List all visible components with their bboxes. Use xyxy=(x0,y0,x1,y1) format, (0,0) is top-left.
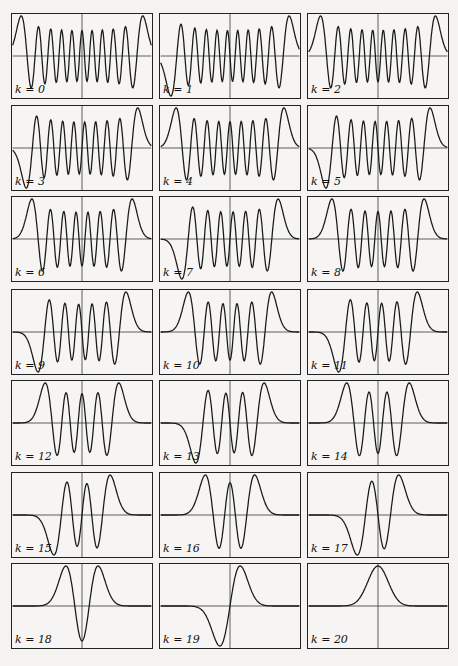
plot-panel-k13: k = 13 xyxy=(159,380,301,466)
panel-label: k = 2 xyxy=(311,83,341,96)
panel-label: k = 8 xyxy=(311,266,341,279)
plot-panel-k19: k = 19 xyxy=(159,563,301,649)
plot-panel-k5: k = 5 xyxy=(307,105,449,191)
plot-panel-k17: k = 17 xyxy=(307,472,449,558)
plot-panel-k11: k = 11 xyxy=(307,289,449,375)
panel-label: k = 19 xyxy=(163,633,200,646)
panel-label: k = 17 xyxy=(311,542,348,555)
panel-label: k = 14 xyxy=(311,450,348,463)
plot-panel-k15: k = 15 xyxy=(11,472,153,558)
plot-panel-k8: k = 8 xyxy=(307,196,449,282)
plot-panel-k0: k = 0 xyxy=(11,13,153,99)
panel-label: k = 11 xyxy=(311,359,348,372)
panel-label: k = 16 xyxy=(163,542,200,555)
panel-label: k = 18 xyxy=(15,633,52,646)
panel-label: k = 5 xyxy=(311,175,341,188)
plot-panel-k1: k = 1 xyxy=(159,13,301,99)
panel-label: k = 1 xyxy=(163,83,193,96)
panel-label: k = 6 xyxy=(15,266,45,279)
plot-panel-k20: k = 20 xyxy=(307,563,449,649)
plot-panel-k12: k = 12 xyxy=(11,380,153,466)
panel-label: k = 10 xyxy=(163,359,200,372)
panel-label: k = 13 xyxy=(163,450,200,463)
plot-panel-k16: k = 16 xyxy=(159,472,301,558)
panel-label: k = 3 xyxy=(15,175,45,188)
plot-panel-k3: k = 3 xyxy=(11,105,153,191)
panel-label: k = 7 xyxy=(163,266,193,279)
panel-label: k = 12 xyxy=(15,450,52,463)
panel-label: k = 20 xyxy=(311,633,348,646)
panel-label: k = 9 xyxy=(15,359,45,372)
plot-panel-k6: k = 6 xyxy=(11,196,153,282)
plot-panel-k2: k = 2 xyxy=(307,13,449,99)
plot-panel-k9: k = 9 xyxy=(11,289,153,375)
plot-panel-k7: k = 7 xyxy=(159,196,301,282)
plot-panel-k4: k = 4 xyxy=(159,105,301,191)
plot-panel-k14: k = 14 xyxy=(307,380,449,466)
plot-panel-k18: k = 18 xyxy=(11,563,153,649)
panel-label: k = 0 xyxy=(15,83,45,96)
panel-label: k = 4 xyxy=(163,175,193,188)
plot-panel-k10: k = 10 xyxy=(159,289,301,375)
panel-label: k = 15 xyxy=(15,542,52,555)
